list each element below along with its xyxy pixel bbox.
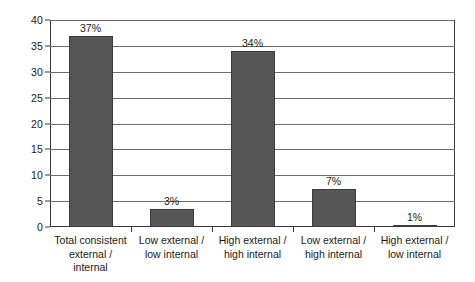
bar-series: 37%3%34%7%1%	[50, 20, 455, 227]
bar-slot: 37%	[50, 20, 131, 227]
plot-area: 4035302520151050 37%3%34%7%1%	[50, 20, 455, 227]
bar-slot: 34%	[212, 20, 293, 227]
x-axis-category-label: Low external /low internal	[131, 234, 212, 261]
bar-slot: 3%	[131, 20, 212, 227]
bar-slot: 7%	[293, 20, 374, 227]
bar-slot: 1%	[374, 20, 455, 227]
bar[interactable]	[150, 209, 194, 227]
bar[interactable]	[393, 225, 437, 227]
bar-value-label: 3%	[164, 195, 179, 207]
bar-value-label: 1%	[407, 211, 422, 223]
bar-value-label: 34%	[242, 37, 263, 49]
bar-value-label: 37%	[80, 22, 101, 34]
bar[interactable]	[312, 189, 356, 227]
x-axis-tick-mark	[293, 227, 294, 232]
x-axis-category-label: High external /low internal	[374, 234, 455, 261]
x-axis-tick-mark	[212, 227, 213, 232]
x-axis-tick-mark	[374, 227, 375, 232]
x-axis-category-label: High external /high internal	[212, 234, 293, 261]
x-axis-tick-mark	[131, 227, 132, 232]
bar-chart: 4035302520151050 37%3%34%7%1% Total cons…	[0, 0, 475, 282]
bar[interactable]	[69, 36, 113, 227]
bar-value-label: 7%	[326, 175, 341, 187]
x-axis-category-label: Low external /high internal	[293, 234, 374, 261]
bar[interactable]	[231, 51, 275, 227]
x-axis-category-label: Total consistentexternal /internal	[50, 234, 131, 275]
